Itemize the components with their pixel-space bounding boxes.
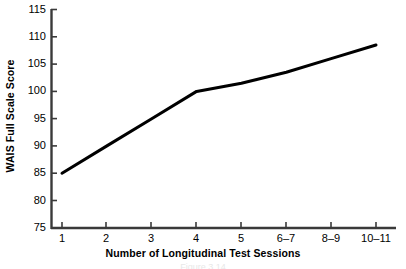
x-axis-title: Number of Longitudinal Test Sessions — [0, 247, 406, 259]
chart-figure: WAIS Full Scale Score 115 110 105 100 95… — [0, 0, 406, 269]
x-tick-label-8-9: 8–9 — [322, 233, 340, 244]
x-tick-label-4: 4 — [193, 233, 199, 244]
x-tick-label-2: 2 — [103, 233, 109, 244]
x-tick-label-6-7: 6–7 — [277, 233, 295, 244]
data-series-line — [62, 45, 376, 173]
x-tick-label-1: 1 — [59, 233, 65, 244]
x-tick-label-5: 5 — [238, 233, 244, 244]
plot-area — [0, 0, 406, 269]
figure-caption: Figure 3.14 — [0, 262, 406, 269]
x-tick-label-10-11: 10–11 — [361, 233, 391, 244]
x-tick-label-3: 3 — [148, 233, 154, 244]
